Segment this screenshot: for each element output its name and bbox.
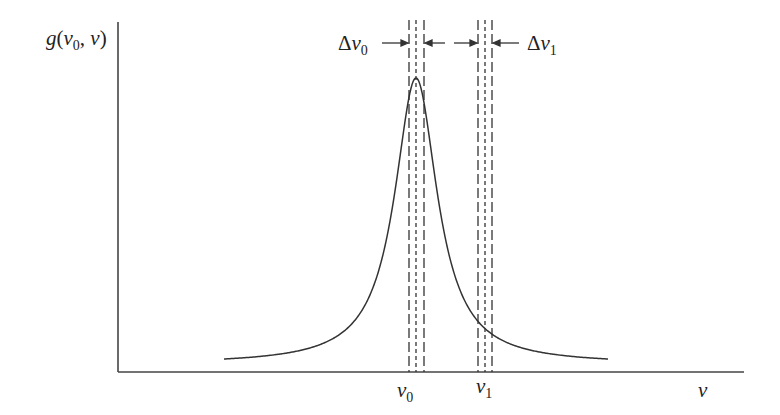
arrow-head-right-icon [401,40,408,46]
y-axis-label: g(v0, v) [46,26,107,53]
band-v1 [478,20,492,372]
x-axis-label: v [698,378,708,402]
delta-v1-label: Δv1 [527,31,557,58]
tick-label-v1: v1 [476,374,492,401]
arrow-head-left-icon [493,40,500,46]
delta-v1-arrows [454,40,519,46]
tick-label-v0: v0 [397,378,413,405]
arrow-head-right-icon [470,40,477,46]
lineshape-diagram: g(v0, v) Δv0 Δv1 v0 v1 v [0,0,780,415]
delta-v0-label: Δv0 [338,31,368,58]
arrow-head-left-icon [425,40,432,46]
band-v0 [409,20,424,372]
delta-v0-arrows [382,40,445,46]
